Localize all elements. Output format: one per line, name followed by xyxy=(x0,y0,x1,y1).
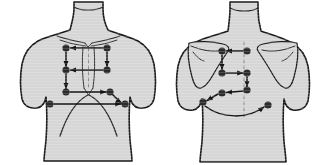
site-a1 xyxy=(62,44,69,51)
posterior-chest-view xyxy=(177,2,310,162)
site-a2 xyxy=(103,44,110,51)
chest-auscultation-diagram xyxy=(0,0,315,165)
site-p2 xyxy=(243,47,250,54)
site-a8 xyxy=(121,100,128,107)
anterior-torso-outline xyxy=(21,2,156,161)
site-p5 xyxy=(218,89,225,96)
diagram-canvas xyxy=(0,0,315,165)
site-p4 xyxy=(243,69,250,76)
site-p3 xyxy=(218,69,225,76)
site-a4 xyxy=(103,66,110,73)
site-a6 xyxy=(106,88,113,95)
site-a7 xyxy=(46,100,53,107)
site-a5 xyxy=(62,88,69,95)
site-p8 xyxy=(264,101,271,108)
site-p6 xyxy=(243,86,250,93)
anterior-chest-view xyxy=(21,2,156,161)
site-p1 xyxy=(218,47,225,54)
site-a3 xyxy=(62,66,69,73)
site-p7 xyxy=(199,98,206,105)
